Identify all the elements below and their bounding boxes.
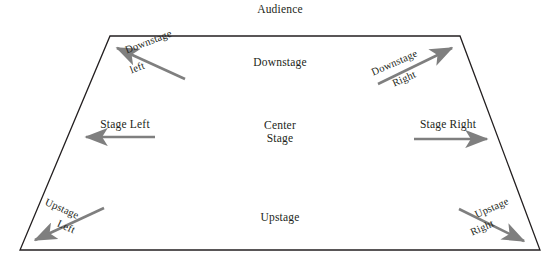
- stage-right-label: Stage Right: [408, 118, 488, 131]
- center-stage-label: Center Stage: [230, 119, 330, 145]
- stage-left-label: Stage Left: [88, 118, 162, 131]
- audience-label: Audience: [230, 3, 330, 16]
- upstage-label: Upstage: [230, 211, 330, 224]
- stage-directions-diagram: Audience Downstage Center Stage Upstage …: [0, 0, 560, 263]
- downstage-label: Downstage: [230, 56, 330, 69]
